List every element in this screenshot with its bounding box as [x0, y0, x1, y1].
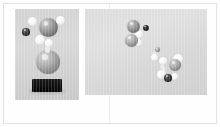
sphere-highlight: [166, 75, 168, 77]
atom-dark-small-sphere: [22, 28, 30, 36]
sphere-highlight: [44, 21, 49, 25]
right-photo-panel[interactable]: [85, 9, 207, 95]
sphere-highlight: [47, 40, 49, 42]
sphere-highlight: [37, 37, 40, 39]
sphere-highlight: [156, 48, 157, 49]
atom-cluster-b-gray: [169, 59, 181, 71]
atom-cluster-a-gray-top: [127, 20, 140, 33]
atom-cluster-b-white-end: [171, 73, 178, 80]
sphere-highlight: [130, 22, 133, 25]
atom-cluster-a-black-dot: [143, 25, 149, 31]
atom-lower-gray-sphere: [36, 50, 60, 74]
left-photo-panel[interactable]: [15, 9, 79, 100]
sphere-highlight: [173, 74, 175, 76]
sphere-highlight: [153, 55, 155, 57]
sphere-highlight: [128, 36, 131, 39]
atom-white-sphere-right: [56, 16, 65, 25]
atom-white-sphere-low: [45, 39, 53, 47]
sphere-highlight: [30, 19, 32, 21]
figure-page: [0, 0, 220, 127]
sphere-highlight: [42, 54, 48, 59]
atom-mid-white-tail: [151, 54, 158, 61]
atom-cluster-a-gray-bottom: [125, 34, 138, 47]
atom-cluster-b-dark-low: [164, 74, 172, 82]
sphere-highlight: [161, 58, 163, 60]
sphere-highlight: [172, 61, 175, 64]
atom-white-sphere-left: [28, 17, 37, 26]
sphere-highlight: [144, 26, 146, 27]
sphere-highlight: [175, 56, 178, 58]
atom-white-sphere-mid: [35, 35, 45, 45]
sphere-highlight: [58, 18, 60, 20]
sphere-highlight: [24, 29, 26, 31]
sphere-highlight: [159, 72, 161, 74]
model-pedestal: [32, 79, 62, 92]
